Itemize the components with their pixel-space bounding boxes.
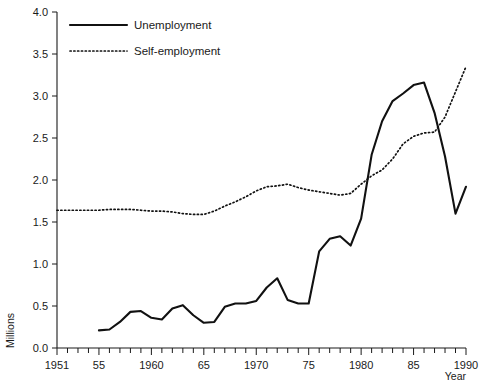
x-tick-label: 75 [303, 359, 315, 371]
y-tick-label: 2.5 [33, 132, 48, 144]
data-series-group [57, 67, 466, 331]
y-axis-ticks [52, 12, 57, 348]
x-tick-label: 1970 [244, 359, 268, 371]
x-tick-label: 1980 [349, 359, 373, 371]
x-axis: 1951551960651970751980851990 Year [45, 348, 478, 382]
x-tick-label: 85 [407, 359, 419, 371]
y-axis-title: Millions [4, 313, 16, 348]
y-axis-tick-labels: 0.00.51.01.52.02.53.03.54.0 [33, 6, 48, 354]
x-axis-minor-ticks [57, 348, 466, 355]
x-tick-label: 1951 [45, 359, 69, 371]
legend-label-unemployment: Unemployment [134, 19, 212, 31]
y-axis: 0.00.51.01.52.02.53.03.54.0 Millions [4, 6, 57, 354]
x-tick-label: 1960 [139, 359, 163, 371]
y-tick-label: 0.5 [33, 300, 48, 312]
legend-label-self-employment: Self-employment [134, 45, 221, 57]
x-tick-label: 65 [198, 359, 210, 371]
y-tick-label: 3.5 [33, 48, 48, 60]
x-axis-title: Year [445, 370, 467, 382]
series-line-unemployment [99, 83, 466, 331]
y-tick-label: 1.5 [33, 216, 48, 228]
chart-legend: Unemployment Self-employment [70, 19, 221, 57]
x-axis-tick-labels: 1951551960651970751980851990 [45, 359, 478, 371]
chart-container: 0.00.51.01.52.02.53.03.54.0 Millions 195… [0, 0, 497, 385]
y-tick-label: 3.0 [33, 90, 48, 102]
series-line-self-employment [57, 67, 466, 215]
y-tick-label: 0.0 [33, 342, 48, 354]
x-tick-label: 55 [93, 359, 105, 371]
line-chart: 0.00.51.01.52.02.53.03.54.0 Millions 195… [0, 0, 497, 385]
y-tick-label: 4.0 [33, 6, 48, 18]
y-tick-label: 2.0 [33, 174, 48, 186]
y-tick-label: 1.0 [33, 258, 48, 270]
